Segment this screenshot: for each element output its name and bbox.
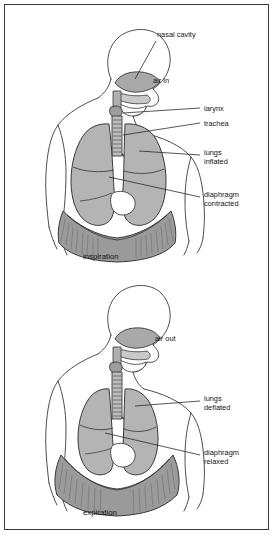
- larynx-shape: [110, 106, 123, 117]
- larynx-shape: [110, 362, 123, 373]
- arm-right-inner: [197, 494, 203, 509]
- label-larynx: larynx: [204, 104, 224, 113]
- label-lungs-deflated-line2: deflated: [204, 403, 230, 412]
- waist-right: [184, 241, 189, 255]
- label-diaphragm-contracted-line1: diaphragm: [204, 190, 239, 199]
- label-air-out: air out: [155, 334, 176, 343]
- shoulder-right: [185, 413, 191, 497]
- label-lungs-inflated-line1: lungs: [204, 148, 222, 157]
- caption-expiration: expiration: [83, 508, 117, 517]
- shoulder-right: [185, 157, 191, 241]
- figure-frame: nasal cavity air in larynx trachea lungs…: [4, 4, 269, 530]
- pharynx-shape: [113, 91, 121, 108]
- label-diaphragm-relaxed-line2: relaxed: [204, 457, 228, 466]
- lung-left-shape: [78, 389, 114, 475]
- label-diaphragm-contracted-line2: contracted: [204, 199, 239, 208]
- panel-inspiration: nasal cavity air in larynx trachea lungs…: [5, 5, 270, 273]
- label-diaphragm-relaxed-line1: diaphragm: [204, 448, 239, 457]
- neck-outline: [98, 335, 111, 354]
- label-lungs-inflated-line2: inflated: [204, 157, 228, 166]
- label-lungs-deflated-line1: lungs: [204, 394, 222, 403]
- neck-front: [133, 372, 144, 389]
- arm-right-inner: [197, 238, 203, 253]
- neck-outline: [98, 79, 111, 98]
- panel-expiration: air out lungs deflated diaphragm relaxed…: [5, 273, 270, 531]
- arm-left-inner: [49, 227, 57, 249]
- label-trachea: trachea: [204, 119, 230, 128]
- caption-inspiration: inspiration: [83, 252, 119, 261]
- lung-left-shape: [71, 124, 115, 226]
- label-air-in: air in: [153, 76, 169, 85]
- tongue-shape: [119, 103, 146, 116]
- pharynx-shape: [113, 347, 121, 364]
- waist-right: [184, 497, 189, 511]
- tongue-shape: [119, 359, 146, 372]
- label-nasal-cavity: nasal cavity: [157, 30, 196, 39]
